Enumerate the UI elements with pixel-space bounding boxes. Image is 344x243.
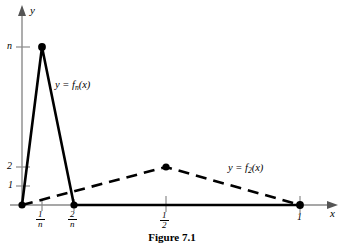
x-tick-label-two-over-n: 2 n [68,210,77,229]
fraction-denominator: n [36,219,45,229]
fraction-numerator: 1 [160,211,169,220]
curve-label-fn-rhs: (x) [79,79,91,90]
fraction-numerator: 2 [68,210,77,219]
x-axis-label: x [330,208,335,219]
curve-label-fn-lhs: y = f [55,79,75,90]
marker-dashed-peak [162,163,169,170]
curve-label-f2: y = f2(x) [228,163,263,174]
curve-label-fn: y = fn(x) [55,80,90,91]
fraction-denominator: n [68,219,77,229]
fraction-denominator: 2 [160,220,169,230]
y-axis-arrowhead [18,5,26,16]
curve-label-f2-rhs: (x) [252,162,264,173]
solid-curve-fn [22,47,300,205]
x-tick-label-one: 1 [297,212,302,222]
fraction-numerator: 1 [36,210,45,219]
fraction-one-half: 1 2 [160,211,169,230]
x-tick-label-one-half: 1 2 [160,211,169,230]
y-tick-label-1: 1 [8,180,13,190]
y-tick-label-n: n [7,41,12,51]
curve-label-f2-lhs: y = f [228,162,248,173]
marker-spike-peak [38,43,46,51]
y-axis-label: y [30,5,35,16]
marker-dashed-end [296,201,304,209]
x-tick-label-one-over-n: 1 n [36,210,45,229]
marker-origin [18,201,25,208]
fraction-two-over-n: 2 n [68,210,77,229]
fraction-one-over-n: 1 n [36,210,45,229]
figure-caption: Figure 7.1 [0,231,344,243]
y-tick-label-2: 2 [7,161,12,171]
marker-spike-end [70,201,77,208]
